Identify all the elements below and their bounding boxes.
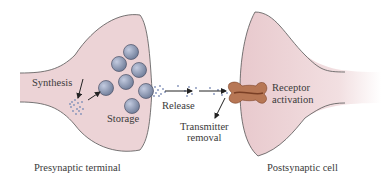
transmitter-removal-label-line2: removal [187,132,221,143]
diagram-graphics [0,0,381,184]
synthesis-label: Synthesis [32,77,72,88]
transmitter-removal-label-line1: Transmitter [180,121,229,132]
receptor-activation-label-line2: activation [272,94,313,105]
postsynaptic-cell-label: Postsynaptic cell [267,162,338,173]
receptor-icon [228,82,266,103]
receptor-activation-label-line1: Receptor [272,82,310,93]
synapse-diagram: Synthesis Storage Release Transmitter re… [0,0,381,184]
storage-label: Storage [107,113,139,124]
release-label: Release [162,100,195,111]
presynaptic-terminal-label: Presynaptic terminal [34,162,121,173]
removal-arrow [215,98,225,118]
